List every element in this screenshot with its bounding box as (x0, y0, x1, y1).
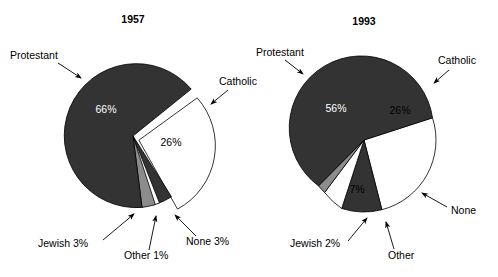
leader-line-other-1993 (386, 222, 394, 249)
callout-label-other-1993: Other (388, 249, 415, 261)
callout-label-none-1957: None 3% (186, 235, 229, 247)
leader-line-protestant-1957 (58, 63, 81, 78)
pct-label-none-1993: 9% (390, 168, 405, 180)
callout-label-catholic-1993: Catholic (438, 54, 476, 66)
leader-line-none-1993 (422, 193, 447, 207)
pie-slices-1957 (64, 64, 215, 209)
pct-label-protestant-1957: 66% (95, 103, 116, 115)
leader-line-none-1957 (175, 215, 196, 236)
leader-line-protestant-1993 (285, 60, 303, 74)
callout-label-protestant-1957: Protestant (10, 49, 58, 61)
callout-label-none-1993: None (451, 204, 476, 216)
leader-line-jewish-1993 (348, 218, 367, 241)
chart-title-1957: 1957 (121, 13, 145, 25)
pct-label-protestant-1993: 56% (325, 102, 346, 114)
callout-label-jewish-1957: Jewish 3% (38, 237, 88, 249)
leader-line-other-1957 (149, 216, 156, 250)
chart-1957: 1957 66% 26% Protestant Catholic (10, 13, 257, 261)
callout-label-jewish-1993: Jewish 2% (290, 237, 340, 249)
figure-canvas: 1957 66% 26% Protestant Catholic (0, 0, 498, 277)
leader-line-catholic-1993 (434, 70, 449, 83)
callout-label-catholic-1957: Catholic (219, 75, 257, 87)
leader-line-jewish-1957 (103, 214, 134, 240)
pct-label-catholic-1957: 26% (160, 136, 181, 148)
pct-label-other-1993: 7% (349, 183, 364, 195)
chart-title-1993: 1993 (352, 15, 376, 27)
religious-affiliation-pie-charts: 1957 66% 26% Protestant Catholic (0, 0, 498, 277)
leader-line-catholic-1957 (211, 90, 228, 104)
callout-label-protestant-1993: Protestant (256, 46, 304, 58)
chart-1993: 1993 56% 26% 9% 7% Protestant C (256, 15, 476, 261)
pct-label-catholic-1993: 26% (389, 104, 410, 116)
callout-label-other-1957: Other 1% (124, 249, 168, 261)
